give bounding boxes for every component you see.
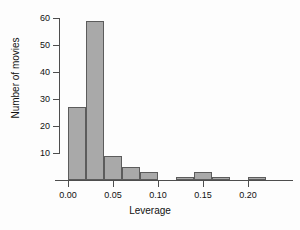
x-axis-title: Leverage [0,205,300,217]
x-tick-label: 0.20 [228,190,268,200]
histogram-bar [122,167,140,181]
y-tick-mark [53,153,59,154]
histogram-bar [194,172,212,180]
x-tick-label: 0.15 [183,190,223,200]
histogram-bar [104,156,122,180]
y-tick-mark [53,18,59,19]
y-tick-mark [53,126,59,127]
y-tick-mark [53,45,59,46]
histogram-figure: 102030405060 0.000.050.100.150.20 Levera… [0,0,300,230]
x-tick-mark [158,181,159,187]
x-tick-mark [113,181,114,187]
x-tick-label: 0.05 [93,190,133,200]
y-axis-line [59,18,60,154]
x-tick-label: 0.00 [48,190,88,200]
histogram-bar [140,172,158,180]
y-axis-title: Number of movies [10,18,22,138]
x-axis-line [55,180,293,181]
y-tick-mark [53,72,59,73]
x-tick-mark [248,181,249,187]
y-tick-label: 10 [10,149,50,158]
histogram-bar [86,21,104,180]
histogram-bar [68,107,86,180]
x-tick-label: 0.10 [138,190,178,200]
y-tick-mark [53,99,59,100]
x-tick-mark [203,181,204,187]
x-tick-mark [68,181,69,187]
